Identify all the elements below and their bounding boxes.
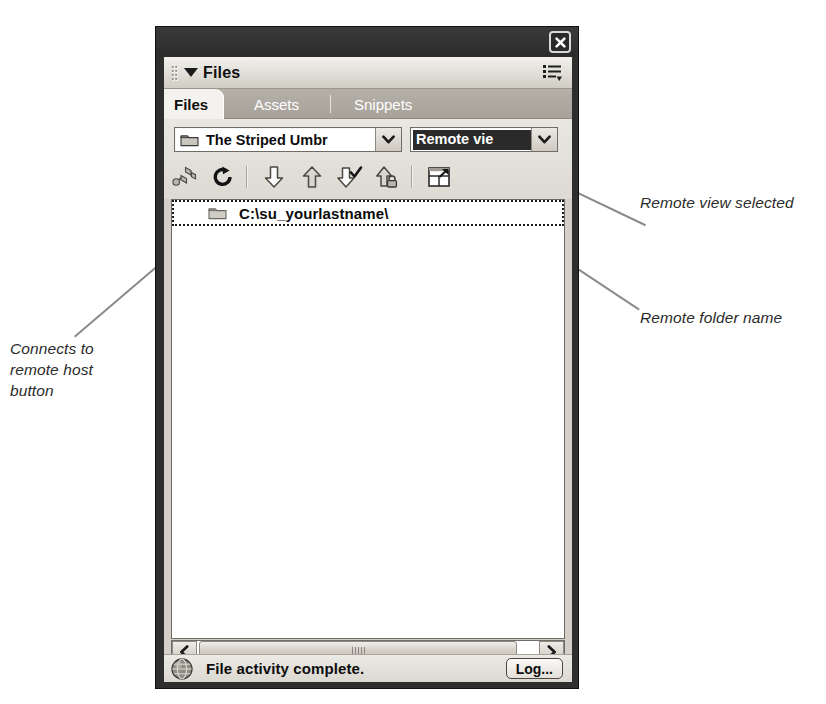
file-row-name: C:\su_yourlastname\ xyxy=(239,205,388,222)
expand-collapse-button[interactable] xyxy=(422,161,456,193)
tab-files[interactable]: Files xyxy=(164,89,224,119)
annotation-remote-view-selected: Remote view selected xyxy=(640,192,826,213)
connect-to-remote-host-button[interactable] xyxy=(168,161,202,193)
log-button-label: Log... xyxy=(516,661,553,677)
panel-title-bar xyxy=(156,27,578,57)
panel-tab-bar: Files Assets Snippets xyxy=(164,89,572,119)
table-row[interactable]: C:\su_yourlastname\ xyxy=(172,200,564,226)
close-icon[interactable] xyxy=(549,31,571,53)
collapse-triangle-icon[interactable] xyxy=(184,68,198,77)
tab-snippets-label: Snippets xyxy=(354,96,412,113)
tab-snippets[interactable]: Snippets xyxy=(342,89,424,119)
get-files-button[interactable] xyxy=(257,161,291,193)
folder-icon xyxy=(208,206,227,220)
folder-icon xyxy=(180,133,199,147)
tab-assets[interactable]: Assets xyxy=(242,89,311,119)
files-panel-header: Files xyxy=(164,57,572,89)
files-panel: Files Files xyxy=(155,26,579,689)
annotation-remote-folder-name: Remote folder name xyxy=(640,307,826,328)
tab-files-label: Files xyxy=(174,96,208,113)
tab-separator xyxy=(330,95,331,113)
panel-options-icon[interactable] xyxy=(543,64,563,82)
site-dropdown-value: The Striped Umbr xyxy=(202,132,375,148)
check-in-button[interactable] xyxy=(371,161,405,193)
check-out-button[interactable] xyxy=(333,161,367,193)
site-dropdown[interactable]: The Striped Umbr xyxy=(174,127,402,152)
panel-body: Files Files xyxy=(164,57,572,682)
remote-file-list[interactable]: C:\su_yourlastname\ xyxy=(171,199,565,639)
files-toolbar: The Striped Umbr Remote vie xyxy=(164,119,572,199)
annotation-connects-to-remote-host: Connects to remote host button xyxy=(10,338,160,401)
view-dropdown-value: Remote vie xyxy=(413,130,531,150)
chevron-down-icon[interactable] xyxy=(375,128,401,151)
status-bar: File activity complete. Log... xyxy=(164,654,572,682)
toolbar-button-row xyxy=(164,159,572,195)
chevron-down-icon[interactable] xyxy=(531,128,557,151)
status-message: File activity complete. xyxy=(206,660,364,677)
log-button[interactable]: Log... xyxy=(506,658,563,679)
toolbar-separator xyxy=(411,166,412,188)
refresh-button[interactable] xyxy=(206,161,240,193)
panel-title: Files xyxy=(203,64,240,82)
drag-grip-icon[interactable] xyxy=(171,65,178,81)
toolbar-separator xyxy=(246,166,247,188)
globe-icon xyxy=(171,658,193,680)
put-files-button[interactable] xyxy=(295,161,329,193)
tab-assets-label: Assets xyxy=(254,96,299,113)
view-dropdown[interactable]: Remote vie xyxy=(410,127,558,152)
